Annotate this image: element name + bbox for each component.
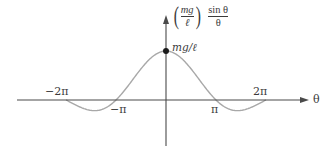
tick-label-neg-pi: −π xyxy=(110,104,126,115)
peak-marker xyxy=(163,48,169,54)
x-axis-label: θ xyxy=(313,94,320,105)
coef-fraction: mg ℓ xyxy=(181,4,194,29)
coef-denominator: ℓ xyxy=(185,17,189,28)
left-paren: ( xyxy=(174,3,179,29)
coef-numerator: mg xyxy=(181,4,194,15)
tick-label-pi: π xyxy=(211,104,218,115)
sinc-numerator: sin θ xyxy=(208,4,228,15)
x-axis-arrow-icon xyxy=(300,97,309,103)
y-axis-arrow-icon xyxy=(163,15,169,24)
sinc-denominator: θ xyxy=(216,17,221,28)
peak-label: mg/ℓ xyxy=(172,42,197,53)
plot-area xyxy=(0,0,329,155)
right-paren: ) xyxy=(195,3,200,29)
sinc-fraction: sin θ θ xyxy=(208,4,228,29)
fraction-bar xyxy=(208,16,228,17)
fraction-bar xyxy=(181,16,194,17)
y-axis-label: ( mg ℓ ) sin θ θ xyxy=(172,3,228,29)
tick-label-2pi: 2π xyxy=(253,86,267,97)
tick-label-neg-2pi: −2π xyxy=(45,86,68,97)
